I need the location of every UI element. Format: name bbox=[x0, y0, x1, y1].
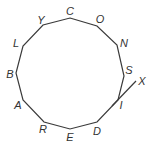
ray-label-x: X bbox=[137, 75, 146, 87]
dodecagon-outline bbox=[16, 18, 124, 129]
vertex-label-s: S bbox=[125, 64, 133, 76]
vertex-label-n: N bbox=[120, 37, 128, 49]
vertex-label-e: E bbox=[66, 131, 74, 143]
vertex-labels: CONSIDERABLY bbox=[6, 5, 133, 143]
vertex-label-i: I bbox=[119, 99, 122, 111]
vertex-label-a: A bbox=[13, 99, 21, 111]
vertex-label-c: C bbox=[66, 5, 74, 17]
dodecagon-diagram: CONSIDERABLY X bbox=[0, 0, 153, 149]
vertex-label-b: B bbox=[6, 68, 13, 80]
vertex-label-l: L bbox=[13, 37, 19, 49]
ray-x-line bbox=[112, 81, 136, 106]
vertex-label-d: D bbox=[93, 125, 101, 137]
vertex-label-o: O bbox=[96, 13, 105, 25]
vertex-label-r: R bbox=[39, 123, 47, 135]
vertex-label-y: Y bbox=[37, 14, 45, 26]
